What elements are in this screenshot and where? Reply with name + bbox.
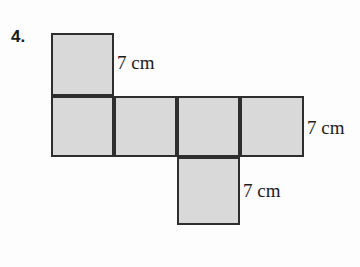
cube-net-figure: 4. 7 cm 7 cm 7 cm — [0, 0, 360, 267]
dimension-label-bottom: 7 cm — [243, 180, 280, 202]
net-square-row-4 — [240, 96, 304, 157]
dimension-label-right: 7 cm — [307, 117, 344, 139]
net-square-top — [51, 33, 114, 96]
net-square-bottom — [177, 157, 240, 225]
net-square-row-3 — [177, 96, 240, 157]
problem-number-label: 4. — [11, 27, 25, 47]
net-square-row-1 — [51, 96, 114, 157]
net-square-row-2 — [114, 96, 177, 157]
dimension-label-top: 7 cm — [117, 52, 154, 74]
